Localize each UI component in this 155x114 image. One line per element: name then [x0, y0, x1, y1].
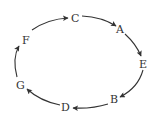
node-c: C	[71, 12, 79, 25]
edge-e-b	[120, 70, 143, 97]
edge-g-f	[15, 46, 19, 77]
node-g: G	[16, 79, 25, 92]
node-b: B	[110, 93, 118, 106]
edge-f-c	[32, 18, 68, 30]
cycle-diagram: C A E B D G F	[0, 0, 155, 114]
node-f: F	[22, 34, 30, 47]
edge-b-d	[73, 104, 108, 108]
node-a: A	[115, 23, 125, 36]
edge-a-e	[125, 34, 141, 56]
edge-c-a	[82, 16, 116, 26]
node-e: E	[139, 58, 147, 71]
node-d: D	[61, 101, 70, 114]
edge-d-g	[27, 89, 60, 105]
